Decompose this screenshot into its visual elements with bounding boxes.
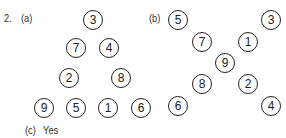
cross-circle: 8: [192, 74, 212, 94]
part-c-label: (c): [25, 124, 36, 136]
triangle-circle: 7: [66, 38, 86, 58]
part-c-answer: Yes: [43, 124, 58, 136]
cross-circle: 7: [192, 32, 212, 52]
triangle-circle: 8: [111, 68, 131, 88]
triangle-circle: 2: [59, 68, 79, 88]
cross-circle: 4: [261, 96, 281, 116]
triangle-circle: 9: [34, 98, 54, 118]
cross-circle: 9: [215, 53, 235, 73]
cross-circle: 6: [168, 96, 188, 116]
part-b-label: (b): [149, 12, 160, 24]
cross-circle: 1: [238, 32, 258, 52]
triangle-circle: 5: [66, 98, 86, 118]
triangle-circle: 1: [98, 98, 118, 118]
triangle-circle: 4: [99, 38, 119, 58]
triangle-circle: 3: [83, 10, 103, 30]
cross-circle: 3: [261, 10, 281, 30]
part-a-label: (a): [21, 12, 32, 24]
triangle-circle: 6: [131, 98, 151, 118]
question-number: 2.: [4, 12, 12, 24]
cross-circle: 2: [238, 74, 258, 94]
cross-circle: 5: [168, 10, 188, 30]
